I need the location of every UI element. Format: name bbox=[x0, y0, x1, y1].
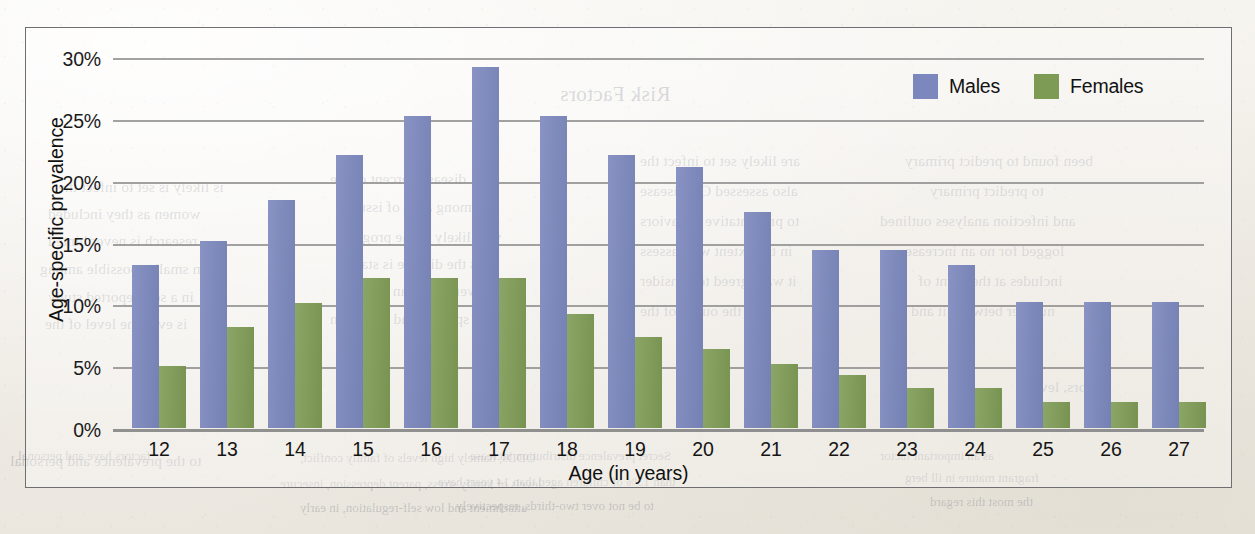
legend-item-males: Males bbox=[913, 74, 1000, 99]
scanned-page: Risk Factorsis likely is set to infect t… bbox=[0, 0, 1255, 534]
x-tick-label-17: 17 bbox=[471, 438, 527, 461]
x-tick-label-21: 21 bbox=[743, 438, 799, 461]
legend-item-females: Females bbox=[1034, 74, 1143, 99]
bar-female-age-21 bbox=[771, 364, 798, 428]
bar-male-age-15 bbox=[336, 155, 363, 428]
bar-male-age-17 bbox=[472, 67, 499, 428]
x-tick-label-18: 18 bbox=[539, 438, 595, 461]
bar-female-age-19 bbox=[635, 337, 662, 429]
bar-male-age-24 bbox=[948, 265, 975, 428]
x-tick-label-12: 12 bbox=[131, 438, 187, 461]
x-tick-label-16: 16 bbox=[403, 438, 459, 461]
x-tick-label-27: 27 bbox=[1151, 438, 1207, 461]
bar-male-age-25 bbox=[1016, 302, 1043, 428]
bar-female-age-15 bbox=[363, 278, 390, 428]
bar-female-age-13 bbox=[227, 327, 254, 428]
bleedthrough-line: the most this regard bbox=[930, 494, 1033, 510]
bar-female-age-24 bbox=[975, 388, 1002, 428]
legend-swatch-female bbox=[1034, 74, 1059, 99]
x-tick-label-23: 23 bbox=[879, 438, 935, 461]
bar-female-age-12 bbox=[159, 366, 186, 428]
bar-male-age-19 bbox=[608, 155, 635, 428]
bar-female-age-20 bbox=[703, 349, 730, 428]
bar-male-age-23 bbox=[880, 250, 907, 428]
bleedthrough-line: to be not over two-thirds, respectively bbox=[456, 498, 654, 514]
legend-label: Males bbox=[949, 75, 1000, 98]
x-tick-label-20: 20 bbox=[675, 438, 731, 461]
x-tick-label-25: 25 bbox=[1015, 438, 1071, 461]
bar-female-age-22 bbox=[839, 375, 866, 428]
bar-male-age-18 bbox=[540, 116, 567, 428]
bar-male-age-22 bbox=[812, 250, 839, 428]
bar-male-age-21 bbox=[744, 212, 771, 428]
x-tick-label-14: 14 bbox=[267, 438, 323, 461]
x-tick-label-24: 24 bbox=[947, 438, 1003, 461]
bar-male-age-26 bbox=[1084, 302, 1111, 428]
bar-male-age-13 bbox=[200, 241, 227, 428]
x-tick-label-22: 22 bbox=[811, 438, 867, 461]
bar-male-age-27 bbox=[1152, 302, 1179, 428]
bleedthrough-line: attachment and low self-regulation, in e… bbox=[300, 500, 527, 516]
bar-male-age-12 bbox=[132, 265, 159, 428]
chart-plot-area: 0%5%10%15%20%25%30% Age-specific prevale… bbox=[26, 28, 1231, 487]
bar-female-age-17 bbox=[499, 278, 526, 428]
x-tick-label-13: 13 bbox=[199, 438, 255, 461]
x-tick-label-15: 15 bbox=[335, 438, 391, 461]
chart-legend: MalesFemales bbox=[913, 74, 1143, 99]
bar-female-age-16 bbox=[431, 278, 458, 428]
legend-swatch-male bbox=[913, 74, 938, 99]
bar-female-age-25 bbox=[1043, 402, 1070, 428]
bar-male-age-20 bbox=[676, 167, 703, 428]
bar-female-age-27 bbox=[1179, 402, 1206, 428]
legend-label: Females bbox=[1070, 75, 1143, 98]
bar-female-age-26 bbox=[1111, 402, 1138, 428]
bar-female-age-23 bbox=[907, 388, 934, 428]
x-tick-label-26: 26 bbox=[1083, 438, 1139, 461]
x-axis-title: Age (in years) bbox=[26, 462, 1231, 485]
bar-female-age-18 bbox=[567, 314, 594, 428]
x-tick-label-19: 19 bbox=[607, 438, 663, 461]
bar-female-age-14 bbox=[295, 303, 322, 428]
chart-frame: 0%5%10%15%20%25%30% Age-specific prevale… bbox=[25, 27, 1232, 488]
bar-male-age-14 bbox=[268, 200, 295, 428]
bar-male-age-16 bbox=[404, 116, 431, 428]
